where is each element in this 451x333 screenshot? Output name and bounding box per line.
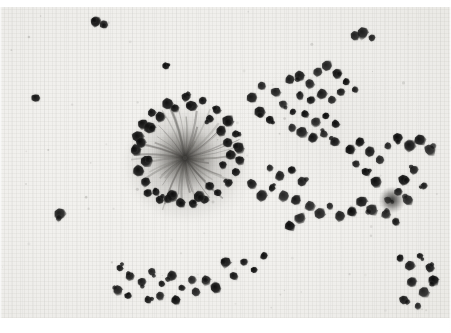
microscopy-plate (0, 7, 451, 318)
top-white-margin (0, 0, 451, 7)
photomicrograph-figure (0, 0, 451, 333)
left-white-margin (0, 0, 2, 333)
bottom-white-margin (0, 318, 451, 333)
cell-field-canvas (0, 7, 451, 318)
